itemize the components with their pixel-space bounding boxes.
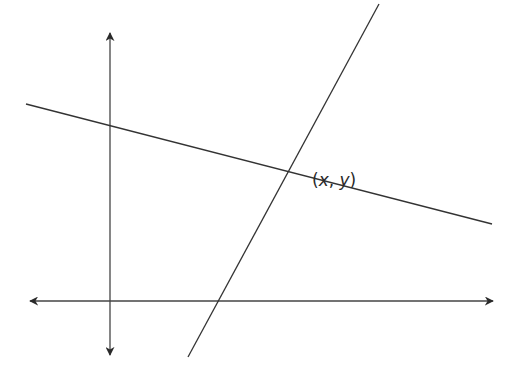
diagram-canvas: (x, y) xyxy=(0,0,523,374)
shallow-line xyxy=(26,104,492,224)
diagram-svg xyxy=(0,0,523,374)
intersection-label: (x, y) xyxy=(312,170,356,190)
